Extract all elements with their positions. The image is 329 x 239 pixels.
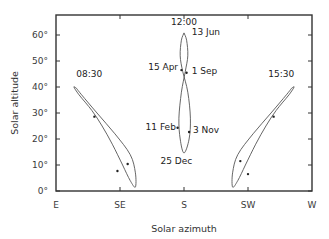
date-marker: [272, 115, 274, 117]
y-tick-label: 60°: [32, 30, 48, 40]
annotation-label: 15:30: [268, 69, 294, 79]
date-marker: [188, 131, 190, 133]
annotation-label: 12:00: [171, 17, 197, 27]
date-marker: [176, 127, 178, 129]
date-marker: [239, 160, 241, 162]
annotation-label: 15 Apr: [148, 62, 178, 72]
x-tick-label: E: [53, 200, 59, 210]
annotation-label: 25 Dec: [160, 156, 192, 166]
x-axis-ticks: ESESSWW: [53, 15, 316, 210]
y-axis-ticks: 0°10°20°30°40°50°60°: [32, 30, 312, 196]
annotation-label: 11 Feb: [146, 122, 177, 132]
y-axis-title: Solar altitude: [9, 71, 20, 135]
analemma-0830: [74, 87, 136, 188]
annotation-label: 08:30: [76, 69, 102, 79]
y-tick-label: 20°: [32, 134, 48, 144]
date-marker: [185, 72, 187, 74]
y-tick-label: 50°: [32, 56, 48, 66]
annotation-label: 1 Sep: [192, 66, 218, 76]
date-marker: [126, 163, 128, 165]
date-marker: [180, 69, 182, 71]
y-tick-label: 30°: [32, 108, 48, 118]
x-axis-title: Solar azimuth: [151, 223, 217, 234]
x-tick-label: W: [308, 200, 317, 210]
y-tick-label: 10°: [32, 160, 48, 170]
annotation-label: 3 Nov: [193, 125, 220, 135]
x-tick-label: SW: [241, 200, 256, 210]
annotation-label: 13 Jun: [192, 27, 220, 37]
annotations: 08:3012:0013 Jun15 Apr1 Sep11 Feb3 Nov25…: [76, 17, 294, 166]
date-marker: [247, 173, 249, 175]
analemma-1200: [179, 33, 191, 153]
date-marker: [116, 170, 118, 172]
analemma-1530: [232, 87, 294, 188]
y-tick-label: 40°: [32, 82, 48, 92]
y-tick-label: 0°: [38, 186, 48, 196]
x-tick-label: S: [181, 200, 187, 210]
solar-analemma-chart: 0°10°20°30°40°50°60° ESESSWW 08:3012:001…: [0, 0, 329, 239]
date-marker: [93, 115, 95, 117]
x-tick-label: SE: [114, 200, 126, 210]
